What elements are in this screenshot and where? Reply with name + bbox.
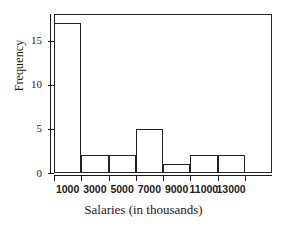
histogram-bar (81, 155, 108, 173)
y-tick-mark (48, 173, 54, 174)
histogram-bar (190, 155, 217, 173)
x-tick-mark (245, 175, 246, 181)
y-tick-label: 5 (16, 123, 42, 134)
x-tick-mark (190, 175, 191, 181)
y-tick-label: 10 (16, 79, 42, 90)
y-tick-label: 0 (16, 168, 42, 179)
y-axis-title: Frequency (12, 6, 27, 126)
y-axis-line (50, 14, 51, 173)
x-tick-mark (218, 175, 219, 181)
histogram-bar (136, 129, 163, 173)
y-tick-label: 15 (16, 35, 42, 46)
x-tick-mark (163, 175, 164, 181)
x-tick-label: 13000 (207, 184, 255, 195)
histogram-bar (54, 23, 81, 173)
x-tick-mark (109, 175, 110, 181)
x-tick-mark (136, 175, 137, 181)
x-tick-mark (54, 175, 55, 181)
histogram-bar (109, 155, 136, 173)
histogram-figure: Frequency 051015 10003000500070009000110… (0, 0, 287, 227)
histogram-bar (163, 164, 190, 173)
histogram-bar (218, 155, 245, 173)
x-axis-title: Salaries (in thousands) (0, 202, 287, 218)
x-tick-mark (81, 175, 82, 181)
histogram-bars (54, 14, 272, 173)
